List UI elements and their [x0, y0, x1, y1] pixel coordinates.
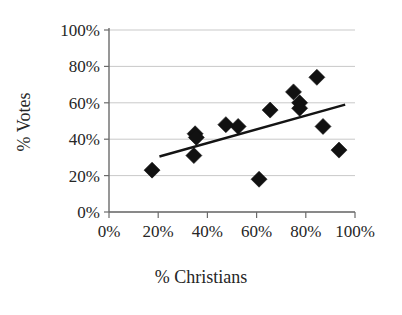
x-axis-tick-labels: 0%20%40%60%80%100% — [98, 222, 375, 241]
x-tick-label: 40% — [192, 222, 223, 241]
x-tick-label: 0% — [98, 222, 121, 241]
x-tick-label: 60% — [241, 222, 272, 241]
data-point-marker — [251, 171, 267, 187]
data-point-marker — [262, 102, 278, 118]
y-tick-label: 40% — [69, 130, 100, 149]
y-tick-label: 60% — [69, 94, 100, 113]
x-tick-label: 100% — [335, 222, 375, 241]
trendline — [159, 105, 345, 157]
chart-canvas: 0%20%40%60%80%100% 0%20%40%60%80%100% % … — [0, 0, 402, 315]
scatter-chart-figure: 0%20%40%60%80%100% 0%20%40%60%80%100% % … — [0, 0, 402, 315]
y-tick-label: 100% — [60, 21, 100, 40]
data-point-marker — [218, 117, 234, 133]
trendline-segment — [159, 105, 345, 157]
y-tick-label: 80% — [69, 57, 100, 76]
data-point-marker — [331, 142, 347, 158]
data-point-marker — [315, 118, 331, 134]
gridlines-group — [109, 30, 355, 212]
y-tick-label: 0% — [77, 203, 100, 222]
data-points-group — [144, 69, 347, 187]
data-point-marker — [186, 148, 202, 164]
x-tick-label: 20% — [143, 222, 174, 241]
data-point-marker — [309, 69, 325, 85]
x-tick-label: 80% — [290, 222, 321, 241]
y-tick-label: 20% — [69, 167, 100, 186]
y-axis-title: % Votes — [14, 93, 34, 152]
x-axis-title: % Christians — [155, 267, 248, 287]
axes-group — [109, 28, 355, 212]
y-axis-tick-labels: 0%20%40%60%80%100% — [60, 21, 100, 222]
